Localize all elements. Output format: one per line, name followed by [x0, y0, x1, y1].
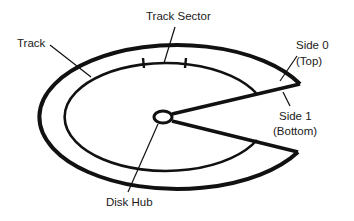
label-side0-line1: Side 0	[296, 39, 329, 51]
label-disk-hub: Disk Hub	[106, 196, 153, 208]
label-track-sector: Track Sector	[146, 10, 211, 22]
floppy-disk-diagram: Track Track Sector Side 0 (Top) Side 1 (…	[0, 0, 354, 221]
disk-hub-leader	[128, 124, 158, 192]
label-side1-line2: (Bottom)	[273, 125, 317, 137]
label-side0-line2: (Top)	[296, 55, 322, 67]
disk-hub-icon	[154, 111, 172, 123]
label-track: Track	[17, 37, 46, 49]
label-side1-line1: Side 1	[279, 110, 312, 122]
sector-tick-left	[143, 58, 144, 68]
sector-tick-right	[185, 58, 186, 68]
side1-leader	[283, 92, 290, 106]
